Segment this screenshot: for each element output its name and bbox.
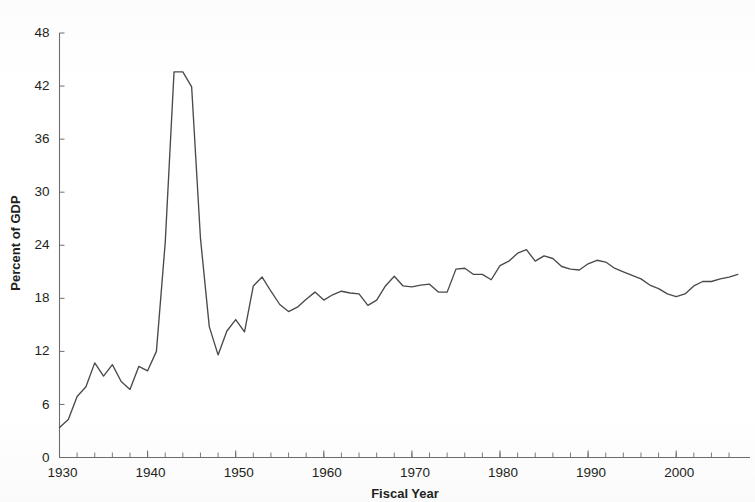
x-axis-minor-ticks <box>60 453 730 458</box>
x-tick-label: 1940 <box>136 465 166 480</box>
y-tick-label: 30 <box>34 184 49 199</box>
y-axis-title: Percent of GDP <box>8 195 23 291</box>
y-tick-label: 0 <box>42 450 50 465</box>
y-axis-tick-labels: 0612182430364248 <box>34 25 50 465</box>
y-axis: 0612182430364248 <box>34 25 64 465</box>
plot-area <box>60 72 738 428</box>
y-tick-label: 42 <box>34 78 49 93</box>
y-axis-ticks <box>60 33 65 458</box>
y-tick-label: 36 <box>34 131 49 146</box>
y-tick-label: 18 <box>34 290 49 305</box>
y-tick-label: 12 <box>34 343 49 358</box>
x-tick-label: 2000 <box>664 465 694 480</box>
line-chart: 0612182430364248 19301940195019601970198… <box>0 0 755 502</box>
x-tick-label: 1930 <box>47 465 77 480</box>
x-axis-ticks <box>60 451 677 458</box>
chart-container: 0612182430364248 19301940195019601970198… <box>0 0 755 502</box>
y-tick-label: 24 <box>34 237 50 252</box>
x-tick-label: 1980 <box>488 465 518 480</box>
x-tick-label: 1950 <box>224 465 254 480</box>
x-axis: 19301940195019601970198019902000 <box>47 451 750 480</box>
x-tick-label: 1970 <box>400 465 430 480</box>
data-series-line <box>60 72 738 428</box>
x-tick-label: 1990 <box>576 465 606 480</box>
x-axis-tick-labels: 19301940195019601970198019902000 <box>47 465 694 480</box>
x-tick-label: 1960 <box>312 465 342 480</box>
y-tick-label: 6 <box>42 397 50 412</box>
y-tick-label: 48 <box>34 25 49 40</box>
x-axis-title: Fiscal Year <box>371 486 439 501</box>
